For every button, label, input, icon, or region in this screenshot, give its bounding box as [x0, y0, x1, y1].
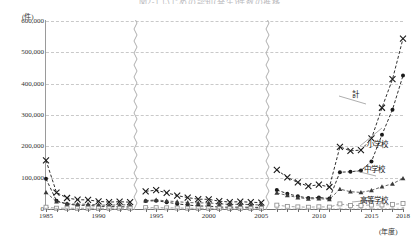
- x-axis-minor-tick: [99, 209, 100, 212]
- x-axis-minor-tick: [219, 209, 220, 212]
- x-axis-minor-tick: [67, 209, 68, 212]
- x-axis-minor-tick: [120, 209, 121, 212]
- x-axis-minor-tick: [146, 209, 147, 212]
- x-axis-minor-tick: [177, 209, 178, 212]
- x-axis-minor-tick: [109, 209, 110, 212]
- label-total: 計: [352, 88, 359, 99]
- x-axis-minor-tick: [156, 209, 157, 212]
- x-axis-minor-tick: [251, 209, 252, 212]
- x-axis-tick: 2018: [396, 212, 410, 220]
- x-axis-minor-tick: [350, 209, 351, 212]
- x-axis-minor-tick: [361, 209, 362, 212]
- x-axis-minor-tick: [308, 209, 309, 212]
- label-high-school: 高等学校: [360, 194, 388, 205]
- x-axis-minor-tick: [298, 209, 299, 212]
- label-junior-high: 中学校: [364, 163, 385, 174]
- x-axis-tick: 1995: [149, 212, 163, 220]
- x-axis-minor-tick: [46, 209, 47, 212]
- x-axis-tick: 2015: [364, 212, 378, 220]
- x-axis-minor-tick: [382, 209, 383, 212]
- x-axis-minor-tick: [188, 209, 189, 212]
- axis-break-mark: [264, 20, 271, 210]
- axis-break-mark: [132, 20, 139, 210]
- x-axis-tick: 1990: [92, 212, 106, 220]
- x-axis-minor-tick: [261, 209, 262, 212]
- x-axis-minor-tick: [392, 209, 393, 212]
- x-axis-tick: 1985: [39, 212, 53, 220]
- x-axis-minor-tick: [371, 209, 372, 212]
- x-axis-minor-tick: [240, 209, 241, 212]
- x-axis-tick: 2000: [202, 212, 216, 220]
- series-layer: [0, 0, 419, 238]
- x-axis-minor-tick: [403, 209, 404, 212]
- x-axis-minor-tick: [319, 209, 320, 212]
- x-axis-minor-tick: [287, 209, 288, 212]
- x-axis-minor-tick: [230, 209, 231, 212]
- x-axis-minor-tick: [329, 209, 330, 212]
- x-axis-tick: 2010: [312, 212, 326, 220]
- series-小学校: [44, 74, 405, 210]
- series-計: [43, 36, 406, 206]
- x-axis-tick: 2005: [254, 212, 268, 220]
- x-axis-minor-tick: [130, 209, 131, 212]
- x-axis-minor-tick: [198, 209, 199, 212]
- chart-figure: 図2-1 いじめの認知(発生)件数の推移 (件) (年度) 600,000500…: [0, 0, 419, 238]
- x-axis-minor-tick: [167, 209, 168, 212]
- label-elementary: 小学校: [367, 138, 388, 149]
- x-axis-minor-tick: [88, 209, 89, 212]
- x-axis-minor-tick: [277, 209, 278, 212]
- x-axis-minor-tick: [78, 209, 79, 212]
- x-axis-minor-tick: [57, 209, 58, 212]
- x-axis-minor-tick: [340, 209, 341, 212]
- x-axis-minor-tick: [209, 209, 210, 212]
